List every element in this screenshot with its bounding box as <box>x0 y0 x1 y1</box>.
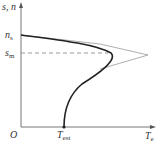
y-axis-label: s, n <box>2 2 16 12</box>
diagram-canvas <box>0 0 161 151</box>
y-axis-arrow-icon <box>19 2 23 8</box>
diagram: s, n ns sm O Test Te <box>0 0 161 151</box>
origin-label: O <box>10 130 17 140</box>
x-axis-label: Te <box>145 131 154 144</box>
test-tick-label: Test <box>57 130 70 143</box>
natural-curve <box>21 35 112 127</box>
simplified-curve <box>21 35 148 69</box>
sm-tick-label: sm <box>5 48 14 61</box>
x-axis-arrow-icon <box>150 125 156 129</box>
ns-tick-label: ns <box>5 30 13 43</box>
